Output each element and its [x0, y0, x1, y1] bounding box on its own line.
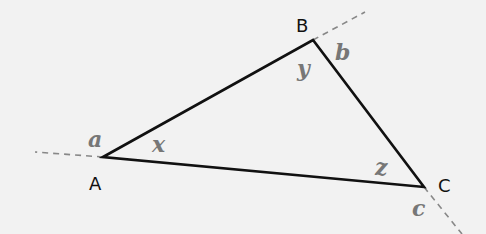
- angle-label-c: c: [412, 195, 426, 221]
- triangle-diagram: A B C x y z a b c: [0, 0, 486, 234]
- angle-label-a: a: [88, 126, 102, 152]
- vertex-label-c: C: [438, 175, 451, 196]
- angle-label-y: y: [296, 55, 312, 81]
- angle-label-z: z: [374, 154, 388, 180]
- angle-label-b: b: [335, 39, 350, 65]
- extension-line-b: [313, 12, 365, 40]
- diagram-svg: A B C x y z a b c: [0, 0, 486, 234]
- extension-line-a: [35, 152, 103, 157]
- angle-label-x: x: [151, 131, 166, 157]
- vertex-label-a: A: [89, 173, 102, 194]
- vertex-label-b: B: [296, 15, 308, 36]
